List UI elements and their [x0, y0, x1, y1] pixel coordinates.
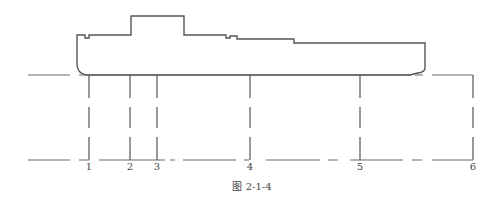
station-label-1: 1 — [86, 161, 92, 172]
station-label-2: 2 — [127, 161, 133, 172]
station-label-3: 3 — [154, 161, 160, 172]
station-label-6: 6 — [470, 161, 476, 172]
hull-profile — [77, 16, 425, 75]
hull-diagram: 1 2 3 4 5 6 图 2-1-4 — [0, 0, 498, 208]
station-label-5: 5 — [357, 161, 363, 172]
figure-caption: 图 2-1-4 — [232, 181, 271, 192]
station-label-4: 4 — [247, 161, 253, 172]
